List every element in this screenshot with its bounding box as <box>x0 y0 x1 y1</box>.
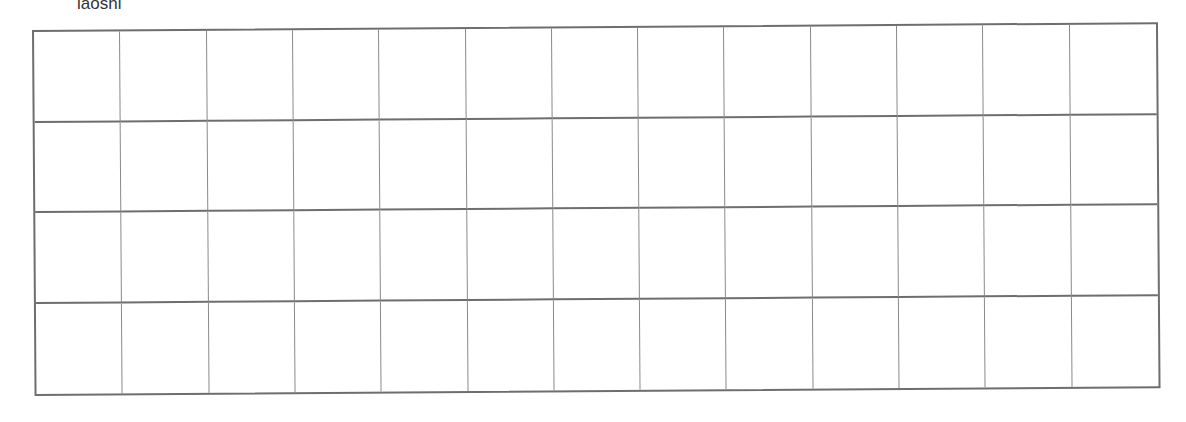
grid-cell <box>209 302 296 393</box>
grid-cell <box>553 209 640 300</box>
grid-cell <box>120 31 207 122</box>
grid-cell <box>1072 296 1159 387</box>
grid-cell <box>639 208 726 299</box>
grid-cell <box>35 212 122 303</box>
grid-cell <box>35 122 122 213</box>
grid-cell <box>640 299 727 390</box>
grid-cell <box>379 29 466 120</box>
grid-cell <box>898 116 985 207</box>
grid-cell <box>34 31 121 122</box>
grid-cell <box>207 121 294 212</box>
grid-cell <box>467 209 554 300</box>
grid-cell <box>121 121 208 212</box>
grid-cell <box>36 303 123 394</box>
grid-cell <box>1070 24 1157 115</box>
grid-cell <box>380 210 467 301</box>
writing-grid <box>32 22 1161 396</box>
grid-cell <box>122 302 209 393</box>
grid-cell <box>380 119 467 210</box>
grid-cell <box>724 27 811 118</box>
grid-cell <box>639 118 726 209</box>
grid-cell <box>985 206 1072 297</box>
grid-cell <box>1071 205 1158 296</box>
grid-cell <box>899 297 986 388</box>
grid-cell <box>294 120 381 211</box>
grid-cell <box>813 297 900 388</box>
grid-cell <box>725 117 812 208</box>
grid-cell <box>552 28 639 119</box>
grid-cell <box>638 27 725 118</box>
grid-cell <box>726 298 813 389</box>
grid-cell <box>552 118 639 209</box>
grid-cell <box>554 299 641 390</box>
grid-cell <box>122 212 209 303</box>
grid-cell <box>381 300 468 391</box>
grid-cell <box>726 208 813 299</box>
grid-cell <box>466 119 553 210</box>
grid-cell <box>897 25 984 116</box>
grid-cell <box>811 26 898 117</box>
grid-cell <box>293 30 380 121</box>
grid-cell <box>812 207 899 298</box>
grid-cell <box>811 116 898 207</box>
pinyin-label: laoshi <box>77 0 121 14</box>
grid-cell <box>467 300 554 391</box>
grid-cell <box>208 211 295 302</box>
grid-cell <box>466 28 553 119</box>
grid-cell <box>1070 115 1157 206</box>
grid-cell <box>985 296 1072 387</box>
grid-cell <box>295 301 382 392</box>
grid-cell <box>207 30 294 121</box>
grid-cell <box>898 206 985 297</box>
grid-cell <box>294 211 381 302</box>
grid-cell <box>984 115 1071 206</box>
grid-cell <box>983 25 1070 116</box>
